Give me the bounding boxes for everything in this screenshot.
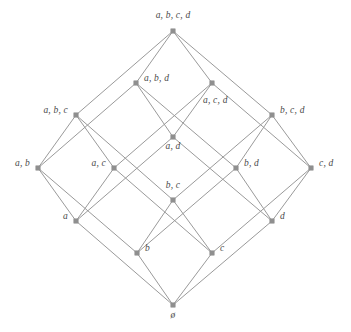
lattice-edge [173,253,212,305]
lattice-node-bd[interactable] [234,166,238,170]
node-label-abd: a, b, d [144,74,169,84]
edge-layer [38,31,311,305]
node-label-empty: ø [171,311,176,321]
lattice-node-d[interactable] [270,219,274,223]
lattice-node-cd[interactable] [309,166,313,170]
lattice-edge [173,200,212,253]
lattice-node-c[interactable] [210,251,214,255]
lattice-node-bc[interactable] [171,198,175,202]
lattice-node-a[interactable] [74,219,78,223]
node-label-bcd: b, c, d [280,106,305,116]
lattice-node-abd[interactable] [134,81,138,85]
node-label-ac: a, c [91,159,106,169]
node-label-ab: a, b [15,159,30,169]
lattice-node-abcd[interactable] [171,29,175,33]
lattice-edge [76,221,173,305]
lattice-node-acd[interactable] [210,81,214,85]
node-label-abc: a, b, c [43,106,68,116]
node-label-acd: a, c, d [203,96,228,106]
lattice-edge [272,168,311,221]
lattice-graph [0,0,351,332]
lattice-edge [114,83,212,168]
node-label-bd: b, d [244,159,259,169]
node-label-ad: a, d [165,142,180,152]
hasse-diagram: a, b, c, da, b, da, c, da, b, cb, c, da,… [0,0,351,332]
node-label-c: c [220,244,224,254]
node-layer [36,29,313,307]
lattice-node-b[interactable] [135,251,139,255]
lattice-edge [114,168,212,253]
lattice-edge [38,168,76,221]
lattice-node-bcd[interactable] [270,113,274,117]
node-label-b: b [145,244,150,254]
node-label-a: a [63,212,68,222]
node-label-cd: c, d [319,159,334,169]
lattice-node-empty[interactable] [171,303,175,307]
lattice-edge [272,115,311,168]
lattice-edge [137,168,236,253]
lattice-edge [212,168,311,253]
lattice-node-ac[interactable] [112,166,116,170]
node-label-abcd: a, b, c, d [156,11,191,21]
lattice-node-ad[interactable] [171,135,175,139]
lattice-edge [76,168,114,221]
lattice-node-ab[interactable] [36,166,40,170]
lattice-edge [173,83,212,137]
lattice-node-abc[interactable] [74,113,78,117]
node-label-d: d [280,212,285,222]
node-label-bc: b, c [166,181,181,191]
lattice-edge [173,31,212,83]
lattice-edge [38,115,76,168]
lattice-edge [173,221,272,305]
lattice-edge [76,137,173,221]
